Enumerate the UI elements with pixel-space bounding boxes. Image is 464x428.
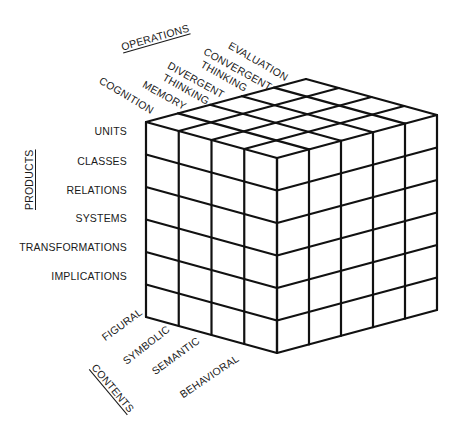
cube-grid-line [244,106,404,149]
cube-grid-line [277,213,437,256]
cube-grid-line [277,148,437,191]
products-axis-title: PRODUCTS [24,149,35,210]
cube-grid-line [277,115,437,158]
product-label-classes: CLASSES [77,156,127,167]
cube-grid-line [277,245,437,288]
structure-of-intellect-diagram: OPERATIONS COGNITION MEMORY DIVERGENT TH… [0,0,464,428]
cube-grid-line [212,97,372,140]
product-label-implications: IMPLICATIONS [51,271,127,282]
cube-grid-line [277,310,437,353]
product-label-units: UNITS [95,126,128,137]
cube-grid-line [277,180,437,223]
product-label-systems: SYSTEMS [75,213,127,224]
product-label-transformations: TRANSFORMATIONS [19,242,127,253]
product-label-relations: RELATIONS [66,185,127,196]
cube-grid-line [277,278,437,321]
